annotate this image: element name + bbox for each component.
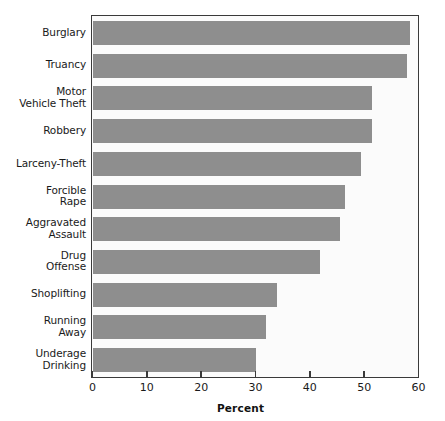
x-tick-label: 50 [357,381,371,394]
bar-row [93,21,419,45]
category-axis-labels: BurglaryTruancyMotorVehicle TheftRobbery… [0,16,86,376]
x-tick-mark [200,371,202,378]
bar-row [93,86,419,110]
bar-row [93,54,419,78]
bar-row [93,283,419,307]
bar [93,283,277,307]
category-label: DrugOffense [0,250,86,273]
x-tick-label: 60 [412,381,426,394]
bar-row [93,250,419,274]
x-tick-label: 10 [140,381,154,394]
category-label: MotorVehicle Theft [0,86,86,109]
x-tick-mark [363,371,365,378]
category-label: Truancy [0,59,86,71]
bar-row [93,119,419,143]
x-tick-label: 30 [249,381,263,394]
category-label: RunningAway [0,315,86,338]
x-tick-mark [418,371,420,378]
bar [93,21,411,45]
category-label: Shoplifting [0,288,86,300]
bar-chart: BurglaryTruancyMotorVehicle TheftRobbery… [0,0,445,421]
x-tick-label: 40 [303,381,317,394]
x-tick-mark [146,371,148,378]
bar [93,217,340,241]
category-label: AggravatedAssault [0,217,86,240]
bar-row [93,315,419,339]
bar [93,348,256,372]
bar [93,119,373,143]
category-label: Robbery [0,125,86,137]
category-label: Larceny-Theft [0,158,86,170]
x-tick-label: 20 [194,381,208,394]
bar [93,315,267,339]
bar [93,185,345,209]
bar [93,250,320,274]
bar-row [93,152,419,176]
category-label: ForcibleRape [0,185,86,208]
bar-row [93,185,419,209]
category-label: UnderageDrinking [0,348,86,371]
x-tick-mark [309,371,311,378]
bar-row [93,217,419,241]
bar [93,152,362,176]
bars-layer [93,17,419,377]
bar [93,54,407,78]
x-tick-mark [255,371,257,378]
x-axis-title: Percent [0,402,445,414]
bar [93,86,373,110]
bar-row [93,348,419,372]
x-tick-mark [92,371,94,378]
x-tick-label: 0 [89,381,96,394]
category-label: Burglary [0,27,86,39]
